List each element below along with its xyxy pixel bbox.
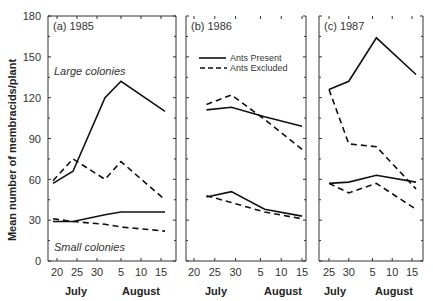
svg-text:0: 0	[35, 255, 41, 267]
legend: Ants Present Ants Excluded	[199, 53, 288, 73]
panel-c-title: (c) 1987	[324, 20, 364, 32]
y-tick-labels: 180 150 120 90 60 30 0	[23, 10, 41, 267]
small-colonies-label: Small colonies	[54, 241, 125, 253]
ants-excluded-line	[53, 219, 165, 231]
x-tick-label: 25	[209, 266, 221, 278]
ants-present-line	[329, 38, 416, 90]
panel-a-august: August	[122, 285, 160, 297]
month-labels: July August July August July August	[65, 285, 413, 297]
x-tick-label: 10	[386, 266, 398, 278]
membracid-chart: Mean number of membracids/plant 180 150 …	[0, 0, 433, 301]
svg-text:120: 120	[23, 92, 41, 104]
ants-present-line	[53, 81, 165, 183]
x-tick-label: 30	[91, 266, 103, 278]
panel-a-july: July	[65, 285, 88, 297]
panel-b-july: July	[205, 285, 228, 297]
x-tick-label: 15	[155, 266, 167, 278]
x-tick-label: 25	[323, 266, 335, 278]
ants-excluded-line	[207, 196, 303, 219]
x-tick-label: 10	[135, 266, 147, 278]
svg-text:30: 30	[29, 214, 41, 226]
ants-present-line	[53, 212, 165, 222]
ants-present-line	[207, 107, 303, 126]
x-tick-label: 5	[118, 266, 124, 278]
legend-ants-present: Ants Present	[230, 53, 282, 63]
ants-present-line	[207, 192, 303, 217]
svg-text:180: 180	[23, 10, 41, 22]
panel-b-title: (b) 1986	[191, 20, 232, 32]
panel-b-august: August	[264, 285, 302, 297]
x-tick-label: 10	[275, 266, 287, 278]
large-colonies-label: Large colonies	[54, 65, 126, 77]
x-tick-label: 15	[296, 266, 308, 278]
x-tick-label: 20	[51, 266, 63, 278]
panel-a-title: (a) 1985	[53, 20, 94, 32]
x-tick-label: 5	[369, 266, 375, 278]
svg-text:150: 150	[23, 51, 41, 63]
x-tick-label: 5	[257, 266, 263, 278]
x-tick-labels: 2025305101520253051015253051015	[51, 266, 418, 278]
x-tick-label: 30	[343, 266, 355, 278]
ants-excluded-line	[53, 159, 165, 200]
x-tick-label: 15	[406, 266, 418, 278]
panel-c-july: July	[324, 285, 347, 297]
ants-present-line	[329, 175, 416, 183]
svg-text:90: 90	[29, 133, 41, 145]
ants-excluded-line	[329, 183, 416, 209]
svg-text:60: 60	[29, 174, 41, 186]
y-axis-label: Mean number of membracids/plant	[6, 59, 18, 241]
legend-ants-excluded: Ants Excluded	[230, 63, 288, 73]
x-tick-label: 25	[71, 266, 83, 278]
x-tick-label: 20	[188, 266, 200, 278]
x-tick-label: 30	[229, 266, 241, 278]
ants-excluded-line	[329, 90, 416, 189]
panel-c-august: August	[375, 285, 413, 297]
